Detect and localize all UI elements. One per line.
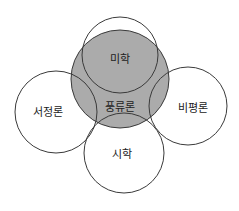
label-bipyeongron: 비평론 [178, 102, 208, 115]
label-mihak: 미학 [110, 53, 130, 66]
label-sihak: 시학 [112, 148, 132, 161]
venn-diagram: 미학 서정론 비평론 시학 풍류론 [0, 0, 239, 211]
label-seojeongron: 서정론 [33, 106, 63, 119]
label-pungryuron: 풍류론 [105, 101, 135, 114]
